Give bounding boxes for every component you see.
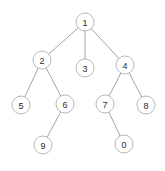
tree-node-9[interactable]: 9 <box>34 136 52 154</box>
tree-node-label-0: 0 <box>121 140 126 150</box>
tree-node-label-5: 5 <box>18 101 23 111</box>
tree-edge-2-5 <box>25 68 38 97</box>
tree-diagram: 1234567890 <box>0 0 165 171</box>
tree-node-label-9: 9 <box>40 141 45 151</box>
tree-node-2[interactable]: 2 <box>33 51 51 69</box>
tree-node-4[interactable]: 4 <box>116 56 134 74</box>
edge-layer <box>25 28 142 137</box>
tree-node-5[interactable]: 5 <box>12 96 30 114</box>
tree-node-7[interactable]: 7 <box>96 95 114 113</box>
tree-edge-1-4 <box>91 29 119 59</box>
tree-node-label-4: 4 <box>122 61 127 71</box>
tree-node-label-6: 6 <box>62 100 67 110</box>
tree-node-label-3: 3 <box>82 64 87 74</box>
tree-node-label-2: 2 <box>39 56 44 66</box>
tree-edge-6-9 <box>47 112 60 137</box>
tree-edge-7-0 <box>109 112 120 136</box>
tree-node-0[interactable]: 0 <box>115 135 133 153</box>
tree-node-8[interactable]: 8 <box>137 96 155 114</box>
tree-edge-2-6 <box>46 68 61 96</box>
tree-node-3[interactable]: 3 <box>76 59 94 77</box>
tree-node-label-8: 8 <box>143 101 148 111</box>
node-layer: 1234567890 <box>12 13 155 154</box>
tree-edge-4-8 <box>129 73 142 97</box>
tree-edge-4-7 <box>109 73 121 96</box>
tree-node-label-1: 1 <box>82 18 87 28</box>
tree-node-label-7: 7 <box>102 100 107 110</box>
tree-node-6[interactable]: 6 <box>56 95 74 113</box>
tree-canvas: 1234567890 <box>0 0 165 171</box>
tree-node-1[interactable]: 1 <box>76 13 94 31</box>
tree-edge-1-2 <box>49 28 79 54</box>
